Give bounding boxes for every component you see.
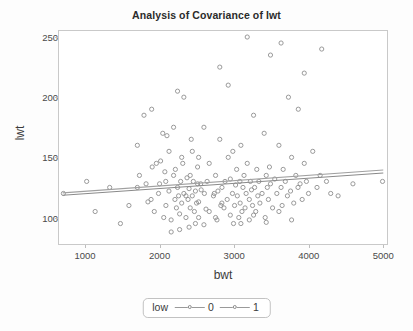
data-point [207,209,211,213]
data-point [280,203,284,207]
data-point [164,179,168,183]
data-point [281,167,285,171]
data-point [239,143,243,147]
data-point [118,221,122,225]
data-point [180,201,184,205]
legend-item-0[interactable]: 0 [175,302,216,313]
data-point [239,221,243,225]
data-point [336,194,340,198]
data-point [263,215,267,219]
data-point [192,209,196,213]
data-point [235,194,239,198]
data-point [241,185,245,189]
data-point [260,191,264,195]
data-point [171,173,175,177]
data-point [380,179,384,183]
data-point [285,194,289,198]
data-point [161,131,165,135]
data-point [262,131,266,135]
scatter-series-0 [197,35,385,227]
data-point [244,191,248,195]
data-point [197,215,201,219]
scatter-series-1 [61,89,200,234]
legend-item-1[interactable]: 1 [220,302,261,313]
data-point [296,107,300,111]
x-tick-mark [383,245,384,248]
data-point [167,149,171,153]
data-point [173,167,177,171]
data-point [329,191,333,195]
data-point [164,203,168,207]
data-point [220,185,224,189]
legend-line-icon [237,307,250,308]
data-point [175,89,179,93]
data-point [253,185,257,189]
data-point [93,209,97,213]
data-point [298,182,302,186]
data-point [156,191,160,195]
data-point [216,189,220,193]
x-tick-label: 5000 [360,250,406,261]
data-point [195,165,199,169]
data-point [146,200,150,204]
x-tick-mark [309,245,310,248]
data-point [245,35,249,39]
data-point [176,194,180,198]
data-point [279,185,283,189]
data-point [193,221,197,225]
data-point [222,206,226,210]
data-point [235,167,239,171]
data-point [245,161,249,165]
data-point [182,95,186,99]
data-point [85,179,89,183]
data-point [240,209,244,213]
data-point [207,161,211,165]
data-point [268,53,272,57]
data-point [167,189,171,193]
legend-line-icon [175,307,188,308]
x-tick-label: 1000 [62,250,108,261]
data-point [311,149,315,153]
data-point [135,143,139,147]
data-point [150,165,154,169]
data-point [189,137,193,141]
data-point [351,182,355,186]
data-point [266,197,270,201]
data-point [315,185,319,189]
data-point [173,197,177,201]
data-point [242,173,246,177]
data-point [251,113,255,117]
data-point [231,149,235,153]
legend: low 0 1 [142,298,270,318]
legend-label-0: 0 [208,302,214,313]
data-point [159,159,163,163]
data-point [256,194,260,198]
data-point [304,179,308,183]
data-point [247,218,251,222]
data-point [190,194,194,198]
data-point [202,223,206,227]
x-tick-label: 4000 [286,250,332,261]
data-point [232,203,236,207]
data-point [270,206,274,210]
data-point [279,41,283,45]
legend-line-icon [192,307,205,308]
data-point [218,137,222,141]
data-point [289,155,293,159]
data-point [225,197,229,201]
data-point [264,173,268,177]
data-point [144,182,148,186]
data-point [150,107,154,111]
data-point [268,182,272,186]
data-point [302,161,306,165]
data-point [187,187,191,191]
data-point [174,206,178,210]
data-point [142,113,146,117]
data-point [171,125,175,129]
legend-label-1: 1 [253,302,259,313]
data-point [288,189,292,193]
data-point [152,209,156,213]
chart-figure: Analysis of Covariance of lwt lwt bwt 10… [0,0,413,331]
data-point [202,191,206,195]
data-point [179,179,183,183]
